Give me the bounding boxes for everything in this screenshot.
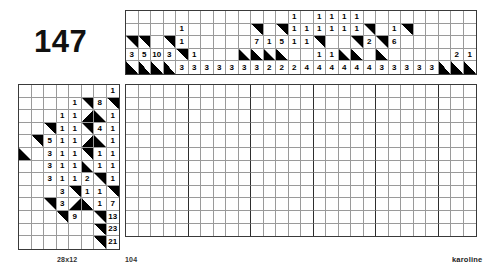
play-cell[interactable] bbox=[389, 161, 402, 174]
play-cell[interactable] bbox=[426, 148, 439, 161]
column-clue-cell[interactable] bbox=[164, 36, 177, 49]
play-cell[interactable] bbox=[289, 211, 302, 224]
play-cell[interactable] bbox=[176, 110, 189, 123]
play-cell[interactable] bbox=[264, 123, 277, 136]
column-clue-cell[interactable] bbox=[464, 61, 477, 74]
play-cell[interactable] bbox=[401, 123, 414, 136]
column-clue-cell[interactable]: 1 bbox=[314, 49, 327, 62]
play-cell[interactable] bbox=[126, 211, 139, 224]
play-cell[interactable] bbox=[151, 224, 164, 237]
play-cell[interactable] bbox=[464, 186, 477, 199]
column-clue-cell[interactable] bbox=[151, 36, 164, 49]
column-clue-cell[interactable] bbox=[376, 49, 389, 62]
column-clue-cell[interactable]: 3 bbox=[239, 61, 252, 74]
play-cell[interactable] bbox=[251, 173, 264, 186]
column-clue-cell[interactable]: 3 bbox=[376, 61, 389, 74]
play-cell[interactable] bbox=[139, 186, 152, 199]
play-cell[interactable] bbox=[314, 123, 327, 136]
play-cell[interactable] bbox=[326, 110, 339, 123]
play-cell[interactable] bbox=[126, 123, 139, 136]
play-cell[interactable] bbox=[164, 186, 177, 199]
column-clue-cell[interactable]: 1 bbox=[326, 49, 339, 62]
column-clue-cell[interactable] bbox=[439, 36, 452, 49]
play-cell[interactable] bbox=[151, 173, 164, 186]
play-cell[interactable] bbox=[401, 224, 414, 237]
row-clue-cell[interactable] bbox=[32, 173, 45, 186]
play-cell[interactable] bbox=[239, 173, 252, 186]
row-clue-cell[interactable]: 3 bbox=[44, 161, 57, 174]
play-cell[interactable] bbox=[289, 173, 302, 186]
column-clue-cell[interactable]: 4 bbox=[364, 61, 377, 74]
play-cell[interactable] bbox=[239, 198, 252, 211]
row-clue-cell[interactable] bbox=[32, 186, 45, 199]
column-clue-cell[interactable]: 5 bbox=[276, 36, 289, 49]
play-cell[interactable] bbox=[301, 110, 314, 123]
column-clue-cell[interactable] bbox=[451, 11, 464, 24]
column-clue-cell[interactable] bbox=[426, 49, 439, 62]
play-cell[interactable] bbox=[164, 173, 177, 186]
play-cell[interactable] bbox=[464, 110, 477, 123]
play-cell[interactable] bbox=[439, 148, 452, 161]
play-cell[interactable] bbox=[289, 186, 302, 199]
row-clue-cell[interactable] bbox=[82, 161, 95, 174]
play-cell[interactable] bbox=[151, 186, 164, 199]
play-cell[interactable] bbox=[389, 211, 402, 224]
nonogram-play-grid[interactable] bbox=[125, 84, 477, 237]
row-clue-cell[interactable] bbox=[69, 186, 82, 199]
column-clue-cell[interactable] bbox=[376, 36, 389, 49]
play-cell[interactable] bbox=[264, 161, 277, 174]
play-cell[interactable] bbox=[426, 211, 439, 224]
play-cell[interactable] bbox=[214, 110, 227, 123]
play-cell[interactable] bbox=[139, 224, 152, 237]
play-cell[interactable] bbox=[189, 173, 202, 186]
play-cell[interactable] bbox=[326, 161, 339, 174]
column-clue-cell[interactable] bbox=[126, 61, 139, 74]
row-clue-cell[interactable] bbox=[57, 98, 70, 111]
play-cell[interactable] bbox=[226, 211, 239, 224]
play-cell[interactable] bbox=[376, 161, 389, 174]
play-cell[interactable] bbox=[464, 198, 477, 211]
play-cell[interactable] bbox=[426, 173, 439, 186]
play-cell[interactable] bbox=[376, 98, 389, 111]
play-cell[interactable] bbox=[164, 224, 177, 237]
play-cell[interactable] bbox=[326, 135, 339, 148]
play-cell[interactable] bbox=[376, 186, 389, 199]
play-cell[interactable] bbox=[126, 110, 139, 123]
row-clue-cell[interactable] bbox=[82, 236, 95, 249]
play-cell[interactable] bbox=[301, 224, 314, 237]
play-cell[interactable] bbox=[276, 135, 289, 148]
play-cell[interactable] bbox=[226, 186, 239, 199]
column-clue-cell[interactable]: 3 bbox=[201, 61, 214, 74]
play-cell[interactable] bbox=[139, 110, 152, 123]
column-clue-cell[interactable] bbox=[464, 11, 477, 24]
play-cell[interactable] bbox=[126, 161, 139, 174]
play-cell[interactable] bbox=[364, 148, 377, 161]
play-cell[interactable] bbox=[339, 161, 352, 174]
column-clue-cell[interactable]: 3 bbox=[389, 61, 402, 74]
play-cell[interactable] bbox=[364, 110, 377, 123]
play-cell[interactable] bbox=[364, 161, 377, 174]
row-clue-cell[interactable] bbox=[19, 148, 32, 161]
column-clue-cell[interactable] bbox=[126, 11, 139, 24]
play-cell[interactable] bbox=[276, 98, 289, 111]
column-clue-cell[interactable]: 1 bbox=[289, 24, 302, 37]
play-cell[interactable] bbox=[414, 211, 427, 224]
play-cell[interactable] bbox=[376, 123, 389, 136]
play-cell[interactable] bbox=[126, 148, 139, 161]
play-cell[interactable] bbox=[151, 110, 164, 123]
play-cell[interactable] bbox=[189, 110, 202, 123]
play-cell[interactable] bbox=[239, 85, 252, 98]
play-cell[interactable] bbox=[264, 135, 277, 148]
play-cell[interactable] bbox=[201, 135, 214, 148]
play-cell[interactable] bbox=[251, 85, 264, 98]
column-clue-cell[interactable] bbox=[426, 36, 439, 49]
play-cell[interactable] bbox=[239, 224, 252, 237]
play-cell[interactable] bbox=[451, 224, 464, 237]
row-clue-cell[interactable] bbox=[19, 211, 32, 224]
column-clue-cell[interactable]: 4 bbox=[351, 61, 364, 74]
row-clue-cell[interactable]: 5 bbox=[44, 135, 57, 148]
play-cell[interactable] bbox=[376, 173, 389, 186]
column-clue-cell[interactable] bbox=[276, 49, 289, 62]
row-clue-cell[interactable] bbox=[44, 123, 57, 136]
column-clue-cell[interactable]: 1 bbox=[326, 24, 339, 37]
